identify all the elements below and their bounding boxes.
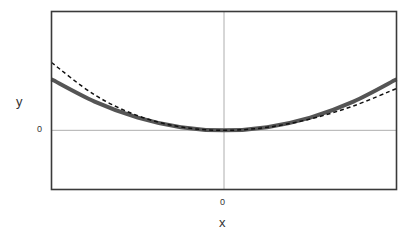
y-tick-zero: 0 xyxy=(37,124,42,134)
x-axis-title: x xyxy=(219,215,226,230)
chart-canvas xyxy=(0,0,416,238)
y-axis-title: y xyxy=(16,94,23,109)
x-tick-zero: 0 xyxy=(220,197,225,207)
